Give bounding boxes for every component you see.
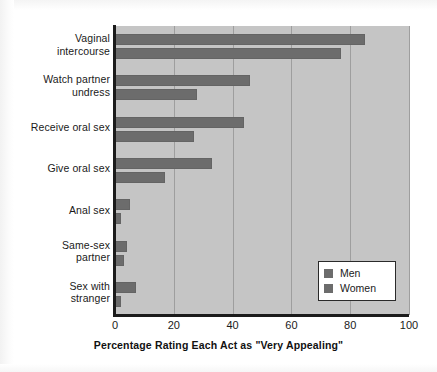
y-axis-category-label: Watch partnerundress (2, 73, 110, 98)
y-label-line: Give oral sex (2, 162, 110, 175)
y-label-line: Sex with (2, 280, 110, 293)
bar (115, 75, 250, 86)
y-label-line: stranger (2, 292, 110, 305)
y-label-line: Anal sex (2, 204, 110, 217)
legend-swatch-women (324, 284, 333, 293)
x-axis-title: Percentage Rating Each Act as "Very Appe… (0, 339, 437, 351)
bar (115, 34, 365, 45)
bar (115, 296, 121, 307)
bar (115, 117, 244, 128)
gridline (174, 26, 175, 315)
y-axis-category-label: Receive oral sex (2, 121, 110, 134)
bar (115, 213, 121, 224)
legend-item-men: Men (324, 266, 390, 281)
x-tick-label: 100 (400, 319, 418, 331)
y-axis-category-label: Give oral sex (2, 162, 110, 175)
x-tick-label: 40 (226, 319, 238, 331)
legend-label-men: Men (340, 268, 360, 279)
chart-legend: Men Women (318, 261, 396, 301)
bar (115, 241, 127, 252)
y-axis-category-label: Same-sexpartner (2, 239, 110, 264)
bar (115, 255, 124, 266)
y-axis-category-label: Vaginalintercourse (2, 32, 110, 57)
y-label-line: partner (2, 251, 110, 264)
gridline (233, 26, 234, 315)
y-axis-category-labels: VaginalintercourseWatch partnerundressRe… (0, 26, 110, 315)
x-tick-label: 60 (285, 319, 297, 331)
y-label-line: Watch partner (2, 73, 110, 86)
x-tick-label: 20 (168, 319, 180, 331)
bar (115, 48, 341, 59)
y-label-line: intercourse (2, 45, 110, 58)
chart-figure: VaginalintercourseWatch partnerundressRe… (0, 0, 437, 372)
legend-swatch-men (324, 269, 333, 278)
bar (115, 282, 136, 293)
y-label-line: Receive oral sex (2, 121, 110, 134)
legend-label-women: Women (340, 283, 376, 294)
bar (115, 199, 130, 210)
y-axis-line (113, 25, 116, 317)
x-tick-label: 0 (112, 319, 118, 331)
y-axis-category-label: Sex withstranger (2, 280, 110, 305)
y-label-line: Same-sex (2, 239, 110, 252)
bar (115, 172, 165, 183)
figure-edge-bottom (0, 364, 437, 372)
gridline (409, 26, 410, 315)
figure-edge-top (0, 0, 437, 10)
bar (115, 131, 194, 142)
bar (115, 89, 197, 100)
x-axis-tick-labels: 020406080100 (0, 319, 437, 335)
y-label-line: Vaginal (2, 32, 110, 45)
bar (115, 158, 212, 169)
y-axis-category-label: Anal sex (2, 204, 110, 217)
x-tick-label: 80 (344, 319, 356, 331)
x-axis-line (113, 314, 409, 317)
legend-item-women: Women (324, 281, 390, 296)
gridline (291, 26, 292, 315)
y-label-line: undress (2, 86, 110, 99)
